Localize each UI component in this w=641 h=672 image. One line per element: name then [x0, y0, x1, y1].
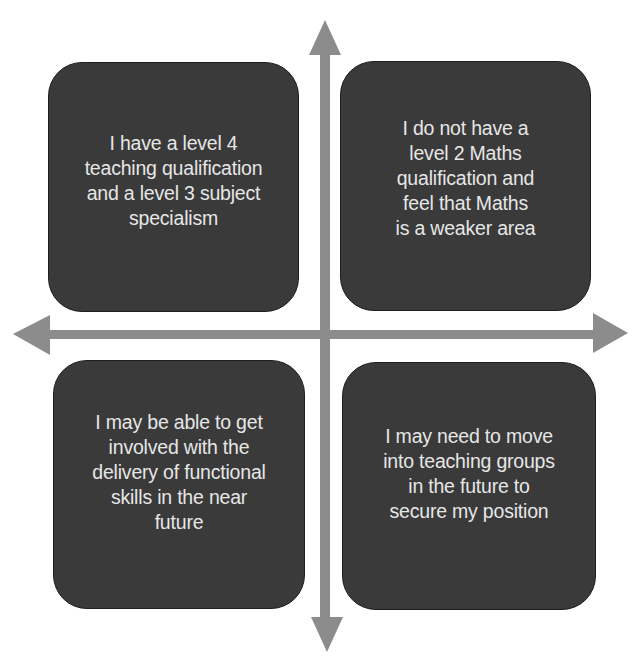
quadrant-bottom-left: I may be able to get involved with the d…	[53, 360, 305, 609]
quadrant-top-right-text: I do not have a level 2 Maths qualificat…	[396, 116, 536, 241]
quadrant-top-left: I have a level 4 teaching qualification …	[48, 62, 299, 312]
quadrant-bottom-right-text: I may need to move into teaching groups …	[383, 424, 555, 524]
quadrant-diagram: I have a level 4 teaching qualification …	[0, 0, 641, 672]
quadrant-bottom-right: I may need to move into teaching groups …	[342, 362, 596, 610]
quadrant-top-left-text: I have a level 4 teaching qualification …	[85, 131, 263, 231]
quadrant-bottom-left-text: I may be able to get involved with the d…	[92, 410, 265, 535]
quadrant-top-right: I do not have a level 2 Maths qualificat…	[340, 61, 591, 311]
